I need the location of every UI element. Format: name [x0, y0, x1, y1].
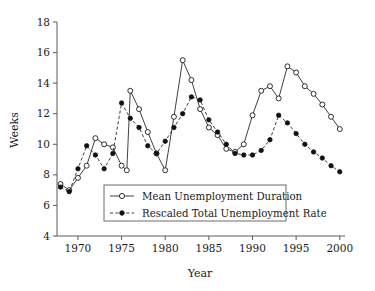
unemployment-duration-line-chart: 4681012141618 19701975198019851990199520… [0, 0, 375, 291]
legend-marker-1 [120, 211, 125, 216]
data-point [311, 150, 315, 154]
y-tick-label: 14 [37, 77, 51, 89]
data-point [172, 125, 176, 129]
data-point [285, 64, 290, 69]
data-point [93, 153, 97, 157]
data-point [276, 96, 281, 101]
y-tick-label: 4 [43, 230, 50, 242]
data-point [294, 131, 298, 135]
data-point [267, 84, 272, 89]
y-tick-label: 8 [43, 168, 50, 180]
data-point [111, 151, 115, 155]
x-axis-title: Year [187, 267, 213, 280]
legend-label: Rescaled Total Unemployment Rate [142, 208, 327, 219]
data-point [67, 189, 71, 193]
y-axis-title: Weeks [8, 112, 21, 148]
data-point [163, 139, 167, 143]
data-point [198, 98, 202, 102]
y-tick-label: 10 [37, 138, 50, 150]
data-point [268, 138, 272, 142]
x-tick-label: 1975 [108, 242, 135, 254]
data-point [302, 84, 307, 89]
y-tick-label: 12 [37, 107, 50, 119]
x-tick-label: 2000 [326, 242, 353, 254]
data-point [329, 114, 334, 119]
x-tick-label: 1990 [239, 242, 266, 254]
data-point [224, 146, 229, 151]
data-point [206, 125, 211, 130]
x-tick-label: 1995 [283, 242, 310, 254]
data-point [180, 112, 184, 116]
chart-background [0, 0, 375, 291]
y-tick-label: 16 [37, 46, 51, 58]
data-point [242, 153, 246, 157]
data-point [276, 113, 280, 117]
data-point [93, 136, 98, 141]
data-point [102, 167, 106, 171]
data-point [119, 163, 124, 168]
data-point [154, 151, 158, 155]
data-point [137, 107, 142, 112]
data-point [180, 58, 185, 63]
x-tick-label: 1985 [195, 242, 222, 254]
data-point [259, 88, 264, 93]
data-point [320, 102, 325, 107]
data-point [119, 101, 123, 105]
data-point [303, 142, 307, 146]
data-point [311, 91, 316, 96]
data-point [224, 142, 228, 146]
data-point [338, 170, 342, 174]
data-point [75, 175, 80, 180]
data-point [337, 127, 342, 132]
data-point [102, 142, 107, 147]
data-point [285, 121, 289, 125]
data-point [198, 107, 203, 112]
data-point [189, 78, 194, 83]
y-tick-label: 6 [43, 199, 50, 211]
data-point [124, 168, 129, 173]
data-point [215, 130, 219, 134]
data-point [329, 163, 333, 167]
data-point [207, 118, 211, 122]
data-point [250, 153, 254, 157]
data-point [233, 151, 237, 155]
x-tick-label: 1970 [65, 242, 92, 254]
data-point [128, 88, 133, 93]
legend-label: Mean Unemployment Duration [142, 191, 303, 202]
data-point [171, 114, 176, 119]
data-point [137, 125, 141, 129]
data-point [146, 144, 150, 148]
legend-marker-0 [119, 193, 124, 198]
y-tick-label: 18 [37, 16, 50, 28]
data-point [163, 168, 168, 173]
data-point [250, 113, 255, 118]
data-point [241, 142, 246, 147]
data-point [84, 163, 89, 168]
data-point [84, 144, 88, 148]
data-point [145, 130, 150, 135]
data-point [76, 167, 80, 171]
data-point [58, 185, 62, 189]
data-point [128, 116, 132, 120]
x-tick-label: 1980 [152, 242, 179, 254]
data-point [320, 156, 324, 160]
data-point [294, 70, 299, 75]
chart-container: 4681012141618 19701975198019851990199520… [0, 0, 375, 291]
data-point [189, 95, 193, 99]
data-point [259, 148, 263, 152]
